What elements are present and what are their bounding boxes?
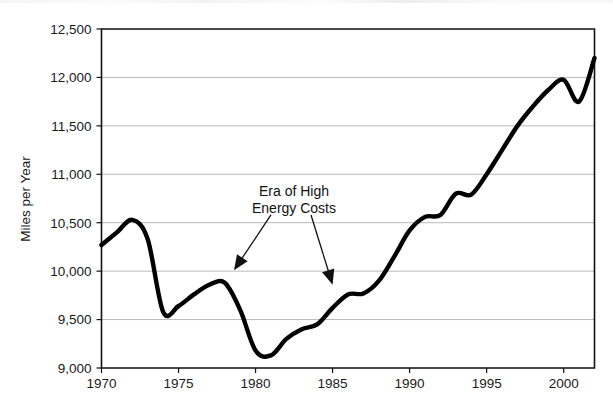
y-tick-labels-group: 9,0009,50010,00010,50011,00011,50012,000… (50, 22, 91, 376)
x-tick-label: 1985 (318, 376, 348, 391)
y-tick-label: 12,500 (50, 22, 91, 37)
y-tick-label: 11,000 (51, 167, 91, 182)
arrow-right-leader-line (311, 215, 329, 272)
x-tick-label: 1995 (472, 376, 502, 391)
arrow-left-head-icon (234, 254, 248, 270)
line-chart: 9,0009,50010,00010,50011,00011,50012,000… (0, 0, 613, 415)
x-tick-label: 1990 (395, 376, 425, 391)
y-tick-label: 9,000 (58, 361, 92, 376)
annotation-group: Era of High Energy Costs (234, 183, 336, 285)
annotation-label-line1: Era of High (259, 183, 329, 199)
y-tick-label: 10,000 (50, 264, 91, 279)
chart-figure: 9,0009,50010,00010,50011,00011,50012,000… (0, 0, 613, 415)
gridlines-group (102, 77, 595, 319)
y-tick-label: 11,500 (51, 119, 91, 134)
y-tick-label: 9,500 (58, 312, 92, 327)
y-tick-label: 10,500 (50, 216, 91, 231)
x-tick-label: 1970 (86, 376, 116, 391)
y-tick-label: 12,000 (50, 70, 91, 85)
annotation-arrows (234, 215, 334, 285)
x-tick-labels-group: 1970197519801985199019952000 (86, 376, 578, 391)
x-tick-label: 1980 (241, 376, 271, 391)
plot-frame (102, 29, 595, 368)
y-axis-title: Miles per Year (18, 156, 33, 242)
data-series-line (102, 58, 595, 357)
x-tick-label: 1975 (164, 376, 194, 391)
x-tick-label: 2000 (549, 376, 579, 391)
arrow-left-leader-line (241, 215, 271, 259)
annotation-label-line2: Energy Costs (252, 200, 336, 216)
